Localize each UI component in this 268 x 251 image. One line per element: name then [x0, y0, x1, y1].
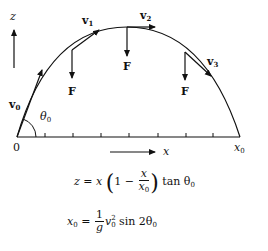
range-equation: x0 = 1gv20 sin 2θ0 [67, 209, 157, 234]
axis-ticks [45, 133, 213, 137]
z-axis-label: z [10, 11, 16, 22]
angle-theta0-label: θ0 [40, 111, 51, 124]
velocity-v0-arrow-icon [17, 70, 42, 137]
velocity-v0-label: v0 [9, 99, 20, 111]
force-label-2: F [123, 61, 131, 72]
origin-label: 0 [13, 142, 20, 153]
force-label-3: F [181, 86, 189, 97]
range-end-label: x0 [234, 142, 245, 155]
velocity-v3-label: v3 [207, 56, 218, 68]
trajectory-equation: z = x (1 − xx0) tan θ0 [74, 168, 195, 196]
velocity-v1-arrow-icon [72, 30, 99, 50]
velocity-v1-label: v1 [82, 15, 93, 27]
force-label-1: F [68, 86, 76, 97]
launch-angle-arc [23, 119, 36, 137]
velocity-v2-label: v2 [140, 10, 151, 22]
x-axis-label: x [163, 146, 169, 157]
